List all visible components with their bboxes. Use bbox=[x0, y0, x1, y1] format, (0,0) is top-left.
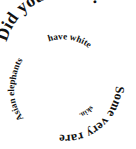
spiral-text-image: Did you know? Some very rare Asian eleph… bbox=[0, 0, 136, 149]
spiral-text-graphic: Did you know? Some very rare Asian eleph… bbox=[0, 0, 136, 149]
